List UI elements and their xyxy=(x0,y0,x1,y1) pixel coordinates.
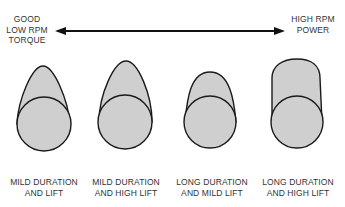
low-rpm-torque-label: GOOD LOW RPM TORQUE xyxy=(2,14,52,46)
left-label-line-3: TORQUE xyxy=(2,35,52,46)
cam-lobe-4 xyxy=(271,59,323,148)
caption-line: AND LIFT xyxy=(4,188,84,199)
lobe-2-caption: MILD DURATION AND HIGH LIFT xyxy=(86,177,166,198)
caption-line: AND HIGH LIFT xyxy=(256,188,340,199)
cam-lobe-1 xyxy=(17,66,71,151)
cam-lobe-3 xyxy=(184,72,236,148)
left-label-line-2: LOW RPM xyxy=(2,25,52,36)
high-rpm-power-label: HIGH RPM POWER xyxy=(283,14,343,35)
arrow-left-head-icon xyxy=(55,27,66,35)
lobe-4-caption: LONG DURATION AND HIGH LIFT xyxy=(256,177,340,198)
right-label-line-1: HIGH RPM xyxy=(283,14,343,25)
caption-line: MILD DURATION xyxy=(4,177,84,188)
rpm-range-arrow xyxy=(55,27,285,35)
cam-lobe-2 xyxy=(98,61,152,149)
left-label-line-1: GOOD xyxy=(2,14,52,25)
caption-line: AND HIGH LIFT xyxy=(86,188,166,199)
lobe-3-caption: LONG DURATION AND MILD LIFT xyxy=(172,177,252,198)
caption-line: LONG DURATION xyxy=(172,177,252,188)
caption-line: AND MILD LIFT xyxy=(172,188,252,199)
caption-line: LONG DURATION xyxy=(256,177,340,188)
caption-line: MILD DURATION xyxy=(86,177,166,188)
right-label-line-2: POWER xyxy=(283,25,343,36)
lobe-1-caption: MILD DURATION AND LIFT xyxy=(4,177,84,198)
